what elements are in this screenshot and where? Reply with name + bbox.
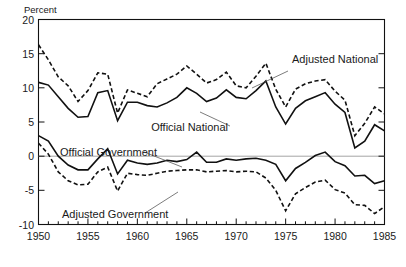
y-tick-label-10: 10	[22, 82, 34, 94]
chart-figure: 20 15 10 5 0 -5 -10 19501955196019651970…	[0, 0, 406, 267]
annotation-official-national: Official National	[151, 121, 228, 133]
x-tick-label-1955: 1955	[76, 230, 100, 242]
x-tick-label-1950: 1950	[27, 230, 51, 242]
annotation-adjusted-government: Adjusted Government	[62, 208, 168, 220]
y-tick-label-neg5: -5	[25, 184, 34, 196]
y-tick-label-0: 0	[28, 150, 34, 162]
series-line-official-government	[39, 136, 385, 184]
x-tick-label-1980: 1980	[323, 230, 347, 242]
y-axis-tick-labels: 20 15 10 5 0 -5 -10	[19, 14, 34, 231]
y-tick-label-5: 5	[28, 116, 34, 128]
y-axis-unit-label: Percent	[24, 4, 57, 15]
annotation-adjusted-national: Adjusted National	[292, 53, 378, 65]
series-annotations: Adjusted National Official National Offi…	[60, 53, 378, 220]
x-tick-label-1965: 1965	[175, 230, 199, 242]
y-tick-label-20: 20	[22, 14, 34, 26]
annotation-official-government: Official Government	[60, 146, 157, 158]
x-tick-label-1975: 1975	[274, 230, 298, 242]
y-tick-label-15: 15	[22, 48, 34, 60]
line-chart-canvas: 20 15 10 5 0 -5 -10 19501955196019651970…	[0, 0, 406, 267]
x-axis-tick-labels: 19501955196019651970197519801985	[27, 230, 397, 242]
annotation-leader-lines	[144, 71, 288, 213]
x-tick-label-1985: 1985	[373, 230, 397, 242]
x-tick-label-1960: 1960	[126, 230, 150, 242]
x-tick-label-1970: 1970	[225, 230, 249, 242]
series-line-official-national	[39, 81, 385, 148]
